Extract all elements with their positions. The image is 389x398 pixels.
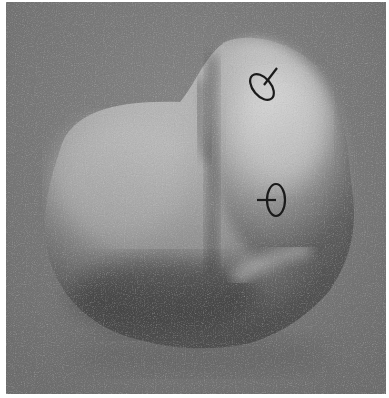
shape-render	[6, 2, 386, 394]
image-frame	[6, 2, 386, 394]
rendered-shape-image	[0, 0, 389, 398]
